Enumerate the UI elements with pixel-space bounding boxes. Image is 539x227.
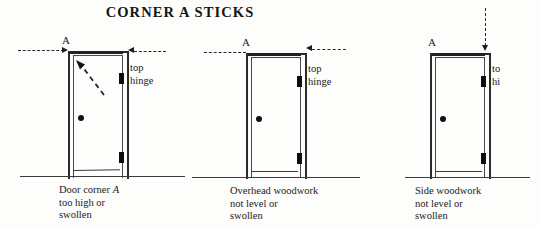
top-hinge [481,76,486,87]
left-level-dashed-line [204,52,246,53]
caption-line-3: swollen [415,210,481,223]
panel-caption: Side woodwork not level or swollen [415,185,481,223]
top-hinge [119,73,124,84]
caption-line-3: swollen [230,210,318,223]
top-hinge-label: top hinge [308,63,331,88]
door-head-lintel [248,53,301,56]
door-knob [256,116,262,122]
caption-corner-letter: A [113,184,119,195]
door-head-lintel [432,53,485,56]
floor-line [405,177,530,178]
interior-diagonal-arrow-icon [74,58,108,98]
bottom-hinge [481,153,486,164]
left-level-dashed-line [18,50,64,51]
top-hinge-label-line2: hinge [308,76,331,89]
top-hinge-label-line2: hi [492,76,500,89]
door-knob [78,115,84,121]
caption-line-2: not level or [415,198,481,211]
caption-line-2: not level or [230,198,318,211]
top-hinge-label-line2: hinge [130,75,153,88]
caption-line-1: Door corner A [59,184,119,197]
corner-label-a: A [62,34,70,46]
caption-line-2: too high or [59,197,119,210]
top-hinge-label: top hinge [130,62,153,87]
figure-canvas: CORNER A STICKS A top hinge [0,0,539,227]
door-leaf-bottom-edge [251,171,298,172]
right-pressure-dashed-line [312,49,346,50]
door-knob [440,116,446,122]
floor-line [20,176,185,177]
bottom-hinge [297,153,302,164]
top-hinge-label-line1: top [130,62,153,75]
panel-caption: Door corner A too high or swollen [59,184,119,222]
panel-door-corner-high: A top hinge Door corner A too hig [0,0,180,227]
caption-line-1-text: Door corner [59,184,113,195]
door-head-lintel [70,51,123,54]
top-hinge-label: to hi [492,63,500,88]
caption-line-1: Side woodwork [415,185,481,198]
panel-caption: Overhead woodwork not level or swollen [230,185,318,223]
top-load-dashed-line [485,8,486,46]
corner-label-a: A [242,36,250,48]
panel-side-woodwork: A to hi Side woodwork not level or swoll… [360,0,539,227]
panel-overhead-woodwork: A top hinge Overhead woodwork not level … [180,0,360,227]
top-hinge-label-line1: top [308,63,331,76]
caption-line-3: swollen [59,209,119,222]
right-pressure-dashed-line [134,51,166,52]
corner-label-a: A [428,36,436,48]
bottom-hinge [119,152,124,163]
floor-line [192,177,360,178]
top-load-arrowhead-icon [482,45,488,51]
door-leaf-bottom-edge [435,171,482,172]
top-hinge-label-line1: to [492,63,500,76]
caption-line-1: Overhead woodwork [230,185,318,198]
top-hinge [297,76,302,87]
